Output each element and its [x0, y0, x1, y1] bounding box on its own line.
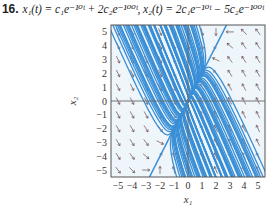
y-tick-label: −1 — [96, 109, 107, 120]
x-tick-label: 5 — [256, 180, 261, 191]
x-tick-label: −4 — [127, 180, 138, 191]
x-axis-label: x₁ — [183, 193, 193, 205]
y-tick-label: −4 — [96, 151, 107, 162]
y-tick-label: 3 — [102, 54, 107, 65]
x-tick-label: 1 — [200, 180, 205, 191]
y-tick-label: 2 — [102, 68, 107, 79]
x-tick-label: 3 — [228, 180, 233, 191]
y-axis-label: x₂ — [66, 96, 78, 106]
y-tick-label: 5 — [102, 26, 107, 37]
y-tick-label: −3 — [96, 137, 107, 148]
x-tick-label: −1 — [169, 180, 180, 191]
x-tick-label: 4 — [242, 180, 247, 191]
x-tick-label: −5 — [113, 180, 124, 191]
phase-portrait-chart: −5−4−3−2−1012345543210−1−2−3−4−5x₁x₂ — [0, 0, 277, 206]
x-tick-label: −2 — [155, 180, 166, 191]
y-tick-label: −5 — [96, 165, 107, 176]
y-tick-label: 1 — [102, 82, 107, 93]
y-tick-label: −2 — [96, 123, 107, 134]
x-tick-label: 0 — [186, 180, 191, 191]
y-tick-label: 0 — [102, 96, 107, 107]
x-tick-label: 2 — [214, 180, 219, 191]
y-tick-label: 4 — [102, 40, 107, 51]
x-tick-label: −3 — [141, 180, 152, 191]
